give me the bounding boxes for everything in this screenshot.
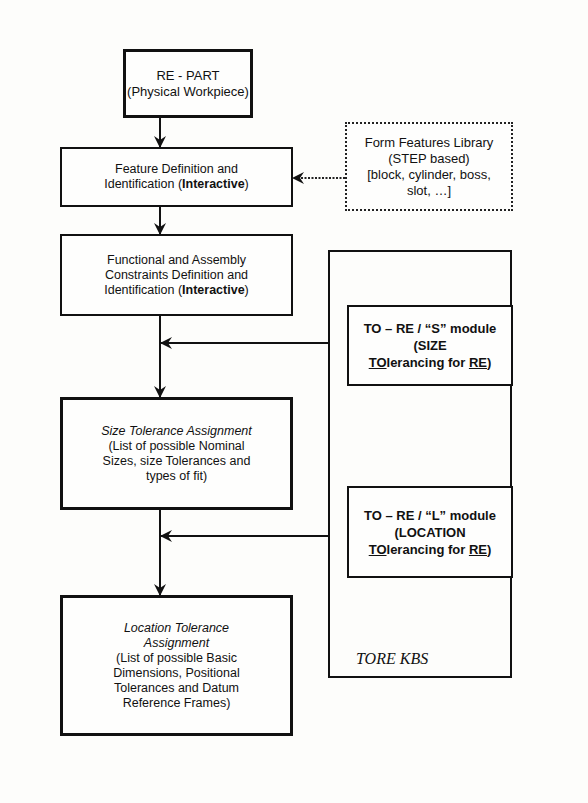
- text-middle: lerancing for: [387, 355, 469, 370]
- functional-line-3: Identification (Interactive): [104, 283, 249, 298]
- library-line-4: slot, …]: [407, 183, 451, 199]
- feature-definition-box: Feature Definition and Identification (I…: [60, 147, 293, 207]
- functional-constraints-box: Functional and Assembly Constraints Defi…: [60, 234, 293, 316]
- library-line-2: (STEP based): [388, 151, 469, 167]
- size-tolerance-title: Size Tolerance Assignment: [101, 424, 252, 439]
- functional-line-1: Functional and Assembly: [107, 253, 246, 268]
- l-module-box: TO – RE / “L” module (LOCATION TOleranci…: [347, 486, 513, 578]
- feature-definition-line-2: Identification (Interactive): [104, 177, 249, 192]
- text-prefix: Identification (: [104, 283, 182, 297]
- size-tolerance-line-4: types of fit): [146, 469, 207, 484]
- location-tolerance-line-5: Tolerances and Datum: [114, 681, 239, 696]
- library-title: Form Features Library: [365, 135, 494, 151]
- s-module-title: TO – RE / “S” module: [364, 320, 497, 337]
- l-module-line-3: TOlerancing for RE): [369, 541, 492, 558]
- interactive-label: Interactive: [182, 177, 245, 191]
- underlined-re: RE: [469, 542, 487, 557]
- re-part-title: RE - PART: [156, 68, 219, 84]
- underlined-to: TO: [369, 542, 387, 557]
- s-module-line-3: TOlerancing for RE): [369, 354, 492, 371]
- underlined-re: RE: [469, 355, 487, 370]
- text-suffix: ): [487, 355, 491, 370]
- location-tolerance-line-6: Reference Frames): [123, 696, 231, 711]
- interactive-label: Interactive: [182, 283, 245, 297]
- location-tolerance-line-4: Dimensions, Positional: [113, 666, 239, 681]
- text-middle: lerancing for: [387, 542, 469, 557]
- location-tolerance-title-1: Location Tolerance: [124, 621, 229, 636]
- location-tolerance-title-2: Assignment: [144, 636, 209, 651]
- feature-definition-line-1: Feature Definition and: [115, 162, 238, 177]
- re-part-box: RE - PART (Physical Workpiece): [123, 49, 253, 118]
- tore-kbs-label: TORE KBS: [356, 650, 428, 668]
- location-tolerance-line-3: (List of possible Basic: [116, 651, 237, 666]
- s-module-box: TO – RE / “S” module (SIZE TOlerancing f…: [347, 305, 513, 386]
- re-part-subtitle: (Physical Workpiece): [127, 84, 249, 100]
- s-module-line-2: (SIZE: [413, 337, 446, 354]
- size-tolerance-box: Size Tolerance Assignment (List of possi…: [60, 397, 293, 510]
- form-features-library-box: Form Features Library (STEP based) [bloc…: [345, 122, 513, 211]
- text-suffix: ): [487, 542, 491, 557]
- location-tolerance-box: Location Tolerance Assignment (List of p…: [60, 595, 293, 736]
- size-tolerance-line-2: (List of possible Nominal: [108, 439, 244, 454]
- text-suffix: ): [245, 177, 249, 191]
- text-suffix: ): [245, 283, 249, 297]
- text-prefix: Identification (: [104, 177, 182, 191]
- library-line-3: [block, cylinder, boss,: [367, 167, 491, 183]
- size-tolerance-line-3: Sizes, size Tolerances and: [103, 454, 251, 469]
- l-module-line-2: (LOCATION: [394, 524, 465, 541]
- functional-line-2: Constraints Definition and: [105, 268, 248, 283]
- underlined-to: TO: [369, 355, 387, 370]
- l-module-title: TO – RE / “L” module: [364, 507, 496, 524]
